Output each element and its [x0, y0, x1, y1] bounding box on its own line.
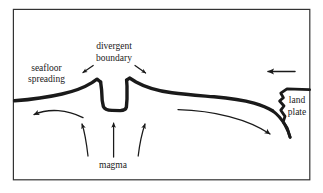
label-divergent-boundary: divergent boundary — [96, 41, 132, 63]
diagram-canvas: seafloor spreading divergent boundary la… — [0, 0, 323, 193]
label-land-plate: land plate — [288, 95, 306, 117]
plate-tectonics-diagram: seafloor spreading divergent boundary la… — [0, 0, 323, 193]
divergent-boundary-line1: divergent — [96, 41, 132, 51]
magma-label: magma — [99, 160, 128, 170]
divergent-boundary-line2: boundary — [96, 53, 132, 63]
label-seafloor-spreading: seafloor spreading — [28, 63, 65, 85]
seafloor-spreading-line2: spreading — [28, 74, 65, 84]
seafloor-spreading-line1: seafloor — [31, 63, 62, 73]
land-plate-line1: land — [289, 95, 306, 105]
land-plate-line2: plate — [288, 107, 306, 117]
